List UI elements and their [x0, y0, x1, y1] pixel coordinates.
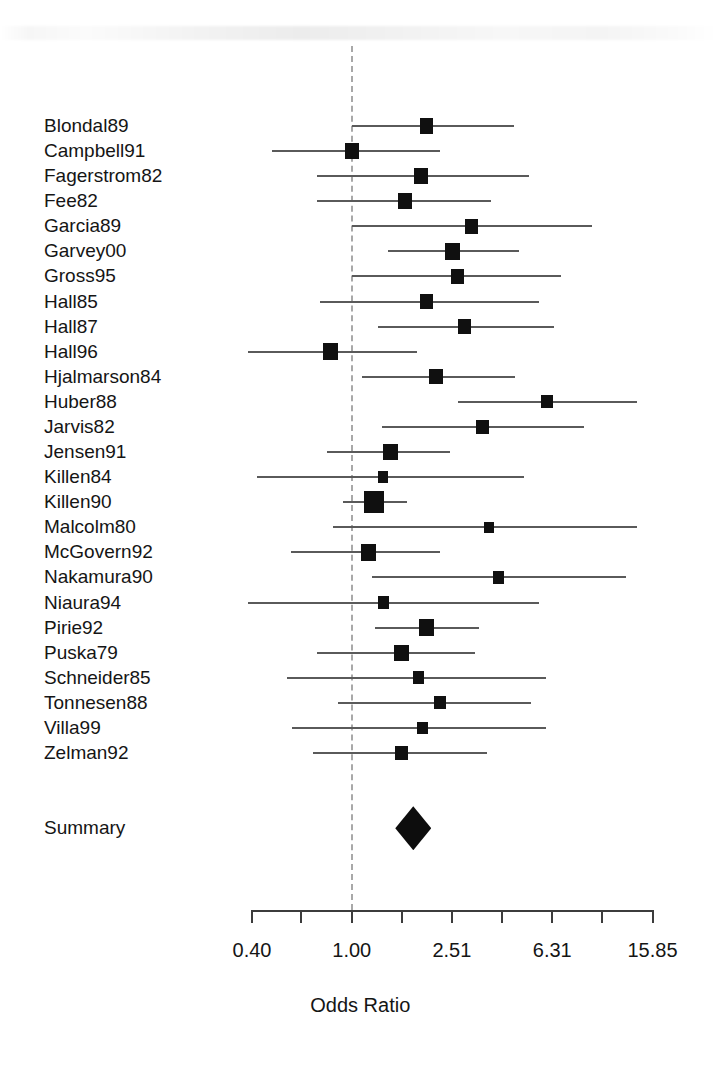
effect-estimate-marker — [345, 143, 359, 158]
effect-estimate-marker — [420, 118, 434, 133]
effect-estimate-marker — [398, 193, 412, 209]
effect-estimate-marker — [323, 343, 338, 360]
effect-estimate-marker — [361, 544, 376, 560]
effect-estimate-marker — [484, 522, 494, 533]
effect-estimate-marker — [383, 444, 397, 460]
confidence-interval-line — [248, 602, 539, 604]
axis-tick — [401, 910, 403, 923]
effect-estimate-marker — [476, 420, 489, 435]
study-label: Puska79 — [44, 643, 118, 662]
study-label: Jarvis82 — [44, 417, 115, 436]
study-label: Tonnesen88 — [44, 693, 148, 712]
study-label: Jensen91 — [44, 442, 126, 461]
study-label: Hall96 — [44, 342, 98, 361]
study-label: McGovern92 — [44, 542, 153, 561]
effect-estimate-marker — [394, 645, 408, 661]
axis-tick-label: 6.31 — [533, 940, 572, 960]
effect-estimate-marker — [413, 671, 424, 684]
study-label: Campbell91 — [44, 141, 145, 160]
axis-tick — [451, 910, 453, 923]
effect-estimate-marker — [417, 722, 428, 735]
study-label: Fagerstrom82 — [44, 166, 162, 185]
effect-estimate-marker — [493, 571, 505, 584]
axis-tick-label: 15.85 — [627, 940, 677, 960]
study-label: Hall87 — [44, 317, 98, 336]
effect-estimate-marker — [378, 471, 388, 482]
study-label: Hjalmarson84 — [44, 367, 161, 386]
study-label: Garvey00 — [44, 241, 126, 260]
axis-tick — [601, 910, 603, 923]
effect-estimate-marker — [451, 269, 464, 284]
effect-estimate-marker — [434, 696, 446, 709]
axis-tick — [652, 910, 654, 923]
summary-label: Summary — [44, 818, 125, 837]
study-label: Blondal89 — [44, 116, 129, 135]
axis-tick — [551, 910, 553, 923]
axis-tick-label: 2.51 — [432, 940, 471, 960]
study-label: Hall85 — [44, 292, 98, 311]
axis-title: Odds Ratio — [310, 995, 410, 1015]
study-label: Killen90 — [44, 492, 112, 511]
summary-diamond — [395, 806, 431, 850]
study-label: Zelman92 — [44, 743, 129, 762]
study-label: Nakamura90 — [44, 567, 153, 586]
study-label: Villa99 — [44, 718, 101, 737]
study-label: Garcia89 — [44, 216, 121, 235]
study-label: Niaura94 — [44, 593, 121, 612]
effect-estimate-marker — [378, 596, 389, 608]
effect-estimate-marker — [364, 491, 384, 513]
scan-artifact — [0, 26, 717, 40]
effect-estimate-marker — [429, 369, 443, 384]
effect-estimate-marker — [419, 619, 434, 635]
effect-estimate-marker — [420, 294, 434, 309]
study-label: Gross95 — [44, 266, 116, 285]
effect-estimate-marker — [541, 395, 553, 408]
study-label: Malcolm80 — [44, 517, 136, 536]
study-label: Killen84 — [44, 467, 112, 486]
axis-tick — [501, 910, 503, 923]
axis-tick — [300, 910, 302, 923]
axis-tick-label: 0.40 — [233, 940, 272, 960]
axis-tick-label: 1.00 — [332, 940, 371, 960]
study-label: Pirie92 — [44, 618, 103, 637]
effect-estimate-marker — [445, 243, 460, 260]
study-label: Fee82 — [44, 191, 98, 210]
effect-estimate-marker — [414, 168, 428, 184]
effect-estimate-marker — [458, 319, 472, 334]
forest-plot: Blondal89Campbell91Fagerstrom82Fee82Garc… — [0, 0, 717, 1076]
axis-tick — [251, 910, 253, 923]
effect-estimate-marker — [395, 746, 408, 761]
study-label: Schneider85 — [44, 668, 151, 687]
confidence-interval-line — [257, 476, 524, 478]
effect-estimate-marker — [465, 219, 478, 234]
axis-tick — [351, 910, 353, 923]
study-label: Huber88 — [44, 392, 117, 411]
